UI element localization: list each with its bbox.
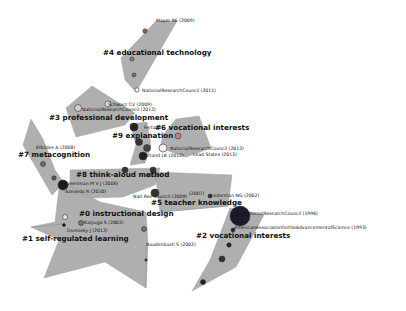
node[interactable]: [79, 221, 84, 226]
ref-label[interactable]: Veenman M V J (2006): [67, 181, 118, 186]
ref-label[interactable]: NationalResearchCouncil (2012): [82, 107, 156, 112]
cluster-label-2[interactable]: #2 vocational interests: [196, 231, 290, 240]
ref-label[interactable]: Efklides A (2008): [36, 145, 75, 150]
ref-label[interactable]: NationalResearchCouncil (2011): [142, 88, 216, 93]
node[interactable]: [75, 105, 82, 112]
node[interactable]: [143, 29, 147, 33]
node[interactable]: [132, 73, 136, 77]
ref-label[interactable]: AmericanAssociationfortheAdvancementofSc…: [234, 225, 367, 230]
node[interactable]: [201, 280, 206, 285]
cluster-label-4[interactable]: #4 educational technology: [103, 48, 212, 57]
ref-label[interactable]: Azevedo R (2010): [65, 189, 106, 194]
ref-label[interactable]: NationalResearchCouncil (1996): [244, 211, 318, 216]
ref-label[interactable]: Dunlosky J (2012): [67, 228, 108, 233]
node[interactable]: [52, 176, 56, 180]
cluster-network-canvas[interactable]: #4 educational technology #3 professiona…: [0, 0, 406, 311]
cluster-label-3[interactable]: #3 professional development: [49, 113, 169, 122]
cluster-label-1[interactable]: #1 self-regulated learning: [22, 234, 129, 243]
cluster-label-9[interactable]: #9 explanation: [112, 131, 173, 140]
node[interactable]: [142, 227, 147, 232]
ref-label[interactable]: Ferland: [144, 125, 161, 130]
cluster-hull-2: [192, 208, 264, 291]
cluster-label-0[interactable]: #0 instructional design: [79, 209, 174, 218]
node[interactable]: [159, 144, 167, 152]
ref-label[interactable]: Lederman NG (2002): [211, 193, 259, 198]
ref-label[interactable]: (2010): [146, 173, 161, 178]
ref-label[interactable]: Lead States (2013): [193, 152, 237, 157]
cluster-label-5[interactable]: #5 teacher knowledge: [151, 198, 242, 207]
node[interactable]: [219, 256, 225, 262]
node[interactable]: [144, 145, 151, 152]
node[interactable]: [227, 243, 231, 247]
node[interactable]: [63, 224, 66, 227]
node[interactable]: [130, 57, 134, 61]
ref-label[interactable]: Kalyuga S (2003): [84, 220, 124, 225]
cluster-label-7[interactable]: #7 metacognition: [18, 150, 90, 159]
node[interactable]: [41, 162, 46, 167]
node[interactable]: [145, 259, 147, 261]
node[interactable]: [230, 206, 250, 226]
node[interactable]: [130, 123, 138, 131]
ref-label[interactable]: Natl Res Council (2009): [133, 194, 187, 199]
ref-label[interactable]: NationalResearchCouncil (2012): [170, 146, 244, 151]
node[interactable]: [63, 215, 68, 220]
node[interactable]: [135, 88, 139, 92]
node[interactable]: [175, 133, 181, 139]
ref-label[interactable]: Ferland LK (2012): [143, 153, 184, 158]
ref-label[interactable]: (2007): [189, 191, 204, 196]
ref-label[interactable]: Mayer RE (2009): [156, 18, 195, 23]
ref-label[interactable]: Raudenbush S (2002): [146, 242, 196, 247]
